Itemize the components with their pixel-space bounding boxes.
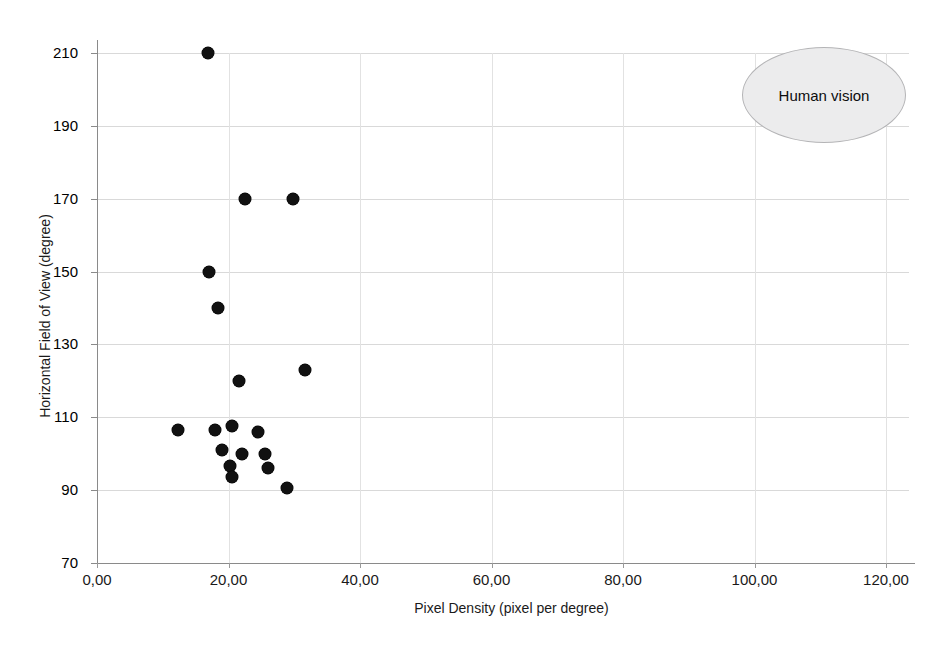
y-tick-label-text: 90 [61,481,86,498]
gridline-vertical [360,53,361,563]
scatter-chart-figure: 7090110130150170190210 0,0020,0040,0060,… [0,0,943,648]
gridline-horizontal [97,199,909,200]
y-tick-label-text: 170 [53,190,86,207]
y-tick-label-text: 110 [54,408,86,425]
gridline-horizontal [97,417,909,418]
data-point [299,364,311,376]
gridline-horizontal [97,344,909,345]
y-axis-title-text: Horizontal Field of View (degree) [37,214,53,418]
data-point [259,448,271,460]
x-tick-label: 40,00 [341,571,379,588]
y-tick-label: 210 [0,44,86,62]
x-tick-label: 100,00 [732,571,778,588]
y-tick-label-text: 210 [53,44,86,61]
x-axis-title: Pixel Density (pixel per degree) [0,600,943,616]
data-point [287,193,299,205]
x-axis-title-text: Pixel Density (pixel per degree) [414,600,609,616]
gridline-vertical [623,53,624,563]
x-axis-line [97,563,915,564]
data-point [203,266,215,278]
human-vision-label-text: Human vision [779,87,870,104]
data-point [262,462,274,474]
x-tick-label: 60,00 [473,571,511,588]
y-tick-mark [91,126,97,127]
x-tick-mark [492,563,493,568]
data-point [209,424,221,436]
data-point [212,302,224,314]
x-tick-mark [360,563,361,568]
y-tick-mark [91,53,97,54]
x-tick-mark [97,563,98,568]
x-tick-mark [755,563,756,568]
data-point [172,424,184,436]
data-point [236,448,248,460]
data-point [281,482,293,494]
data-point [226,471,238,483]
data-point [202,47,214,59]
y-tick-label-text: 150 [53,263,86,280]
data-point [226,420,238,432]
x-tick-label: 80,00 [604,571,642,588]
human-vision-label: Human vision [742,47,906,143]
data-point [239,193,251,205]
y-tick-mark [91,417,97,418]
x-tick-mark [623,563,624,568]
gridline-horizontal [97,272,909,273]
y-tick-mark [91,344,97,345]
y-axis-line [97,40,98,564]
data-point [216,444,228,456]
x-tick-label: 0,00 [82,571,111,588]
y-tick-mark [91,199,97,200]
y-tick-label-text: 70 [61,554,86,571]
y-tick-mark [91,272,97,273]
x-tick-label: 20,00 [210,571,248,588]
x-tick-mark [229,563,230,568]
data-point [252,426,264,438]
gridline-horizontal [97,490,909,491]
gridline-vertical [229,53,230,563]
y-tick-label-text: 190 [53,117,86,134]
x-tick-label: 120,00 [863,571,909,588]
x-tick-mark [886,563,887,568]
y-tick-label-text: 130 [53,335,86,352]
data-point [233,375,245,387]
y-axis-title: Horizontal Field of View (degree) [37,66,53,566]
y-tick-mark [91,490,97,491]
gridline-vertical [492,53,493,563]
